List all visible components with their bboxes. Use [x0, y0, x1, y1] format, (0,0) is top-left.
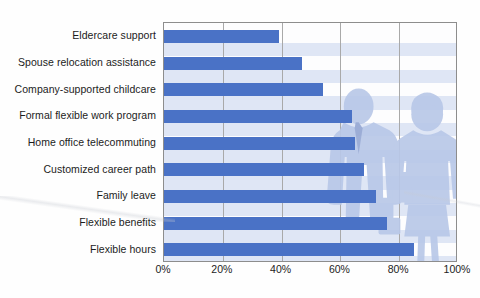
row-band [164, 256, 456, 262]
bar [164, 217, 387, 230]
row-band [164, 70, 456, 84]
x-tick-label: 100% [444, 264, 471, 275]
row-band [164, 203, 456, 217]
category-label: Formal flexible work program [0, 110, 156, 121]
x-tick-label: 80% [388, 264, 409, 275]
row-band [164, 123, 456, 137]
bar [164, 137, 355, 150]
x-tick-label: 0% [155, 264, 170, 275]
category-label: Spouse relocation assistance [0, 57, 156, 68]
category-label: Customized career path [0, 163, 156, 174]
category-label: Company-supported childcare [0, 83, 156, 94]
category-label: Flexible hours [0, 243, 156, 254]
bar-chart-figure: Eldercare supportSpouse relocation assis… [0, 0, 480, 298]
row-band [164, 43, 456, 57]
x-tick-label: 60% [329, 264, 350, 275]
bar [164, 163, 364, 176]
row-band [164, 176, 456, 190]
plot-area [163, 22, 457, 262]
bar [164, 30, 279, 43]
x-axis: 0%20%40%60%80%100% [163, 264, 457, 284]
row-band [164, 230, 456, 244]
gridline [399, 23, 400, 261]
bar [164, 110, 352, 123]
category-axis-labels: Eldercare supportSpouse relocation assis… [0, 22, 160, 262]
bar [164, 243, 414, 256]
bar [164, 57, 302, 70]
row-band [164, 96, 456, 110]
category-label: Flexible benefits [0, 217, 156, 228]
category-label: Family leave [0, 190, 156, 201]
x-tick-label: 20% [211, 264, 232, 275]
x-tick-label: 40% [270, 264, 291, 275]
category-label: Eldercare support [0, 30, 156, 41]
bar [164, 190, 376, 203]
bar [164, 83, 323, 96]
row-band [164, 150, 456, 164]
category-label: Home office telecommuting [0, 137, 156, 148]
